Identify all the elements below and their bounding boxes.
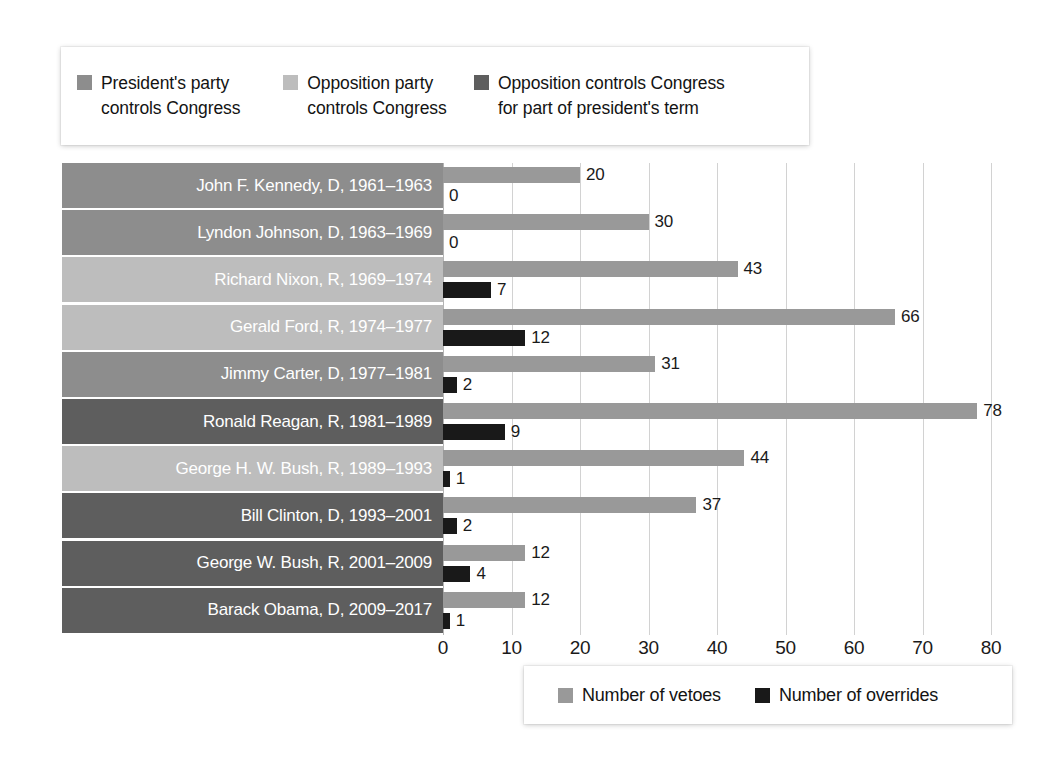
bars-layer: 2003004376612312789441372124121 bbox=[443, 163, 991, 635]
legend-item-presidents-party: President's party controls Congress bbox=[77, 71, 283, 121]
category-label: Richard Nixon, R, 1969–1974 bbox=[214, 270, 432, 290]
bar-override bbox=[443, 330, 525, 346]
control-of-congress-legend: President's party controls Congress Oppo… bbox=[61, 47, 809, 145]
x-tick-label-40: 40 bbox=[707, 637, 728, 659]
bar-value-override: 2 bbox=[463, 375, 472, 395]
bar-override bbox=[443, 613, 450, 629]
bar-value-veto: 43 bbox=[744, 259, 763, 279]
bar-veto bbox=[443, 450, 744, 466]
legend-label-line2: controls Congress bbox=[101, 98, 240, 118]
x-tick-label-20: 20 bbox=[570, 637, 591, 659]
bar-veto bbox=[443, 356, 655, 372]
bar-value-override: 0 bbox=[449, 186, 458, 206]
x-tick-label-60: 60 bbox=[844, 637, 865, 659]
category-label: Bill Clinton, D, 1993–2001 bbox=[241, 506, 432, 526]
bar-value-veto: 37 bbox=[702, 495, 721, 515]
x-axis: 01020304050607080 bbox=[443, 635, 991, 665]
category-band: Gerald Ford, R, 1974–1977 bbox=[62, 305, 443, 350]
bar-value-override: 12 bbox=[531, 328, 550, 348]
x-tick-label-80: 80 bbox=[981, 637, 1002, 659]
bar-veto bbox=[443, 167, 580, 183]
bar-override bbox=[443, 282, 491, 298]
category-band: Richard Nixon, R, 1969–1974 bbox=[62, 257, 443, 302]
x-tick-label-30: 30 bbox=[638, 637, 659, 659]
category-band: Lyndon Johnson, D, 1963–1969 bbox=[62, 210, 443, 255]
category-band: Ronald Reagan, R, 1981–1989 bbox=[62, 399, 443, 444]
bar-override bbox=[443, 424, 505, 440]
bar-veto bbox=[443, 545, 525, 561]
category-label: Ronald Reagan, R, 1981–1989 bbox=[203, 412, 432, 432]
legend-label-line1: Opposition party bbox=[307, 73, 433, 93]
legend-label-line2: for part of president's term bbox=[498, 98, 699, 118]
bar-value-override: 7 bbox=[497, 280, 506, 300]
legend-label-presidents-party: President's party controls Congress bbox=[101, 71, 240, 121]
bar-value-veto: 44 bbox=[750, 448, 769, 468]
bar-value-veto: 31 bbox=[661, 354, 680, 374]
legend-label-overrides: Number of overrides bbox=[779, 685, 938, 706]
bar-veto bbox=[443, 261, 738, 277]
bar-veto bbox=[443, 497, 696, 513]
bar-override bbox=[443, 471, 450, 487]
legend-swatch-presidents-party bbox=[77, 75, 92, 90]
x-tick-label-50: 50 bbox=[775, 637, 796, 659]
category-band: John F. Kennedy, D, 1961–1963 bbox=[62, 163, 443, 208]
category-label: Gerald Ford, R, 1974–1977 bbox=[230, 317, 432, 337]
legend-label-line1: President's party bbox=[101, 73, 229, 93]
bar-value-override: 1 bbox=[456, 469, 465, 489]
bar-value-override: 2 bbox=[463, 516, 472, 536]
series-legend: Number of vetoes Number of overrides bbox=[524, 666, 1012, 724]
bar-value-override: 9 bbox=[511, 422, 520, 442]
bar-value-override: 1 bbox=[456, 611, 465, 631]
bar-override bbox=[443, 518, 457, 534]
category-band: Jimmy Carter, D, 1977–1981 bbox=[62, 352, 443, 397]
category-band: Barack Obama, D, 2009–2017 bbox=[62, 588, 443, 633]
bar-value-override: 4 bbox=[476, 564, 485, 584]
legend-label-line2: controls Congress bbox=[307, 98, 446, 118]
legend-item-opposition-partial: Opposition controls Congress for part of… bbox=[474, 71, 795, 121]
bar-value-veto: 66 bbox=[901, 307, 920, 327]
legend-label-opposition-party: Opposition party controls Congress bbox=[307, 71, 446, 121]
bar-veto bbox=[443, 592, 525, 608]
category-band: Bill Clinton, D, 1993–2001 bbox=[62, 493, 443, 538]
legend-label-opposition-partial: Opposition controls Congress for part of… bbox=[498, 71, 725, 121]
bar-value-veto: 20 bbox=[586, 165, 605, 185]
bar-value-veto: 12 bbox=[531, 590, 550, 610]
bar-override bbox=[443, 377, 457, 393]
category-band: George H. W. Bush, R, 1989–1993 bbox=[62, 446, 443, 491]
category-label: Lyndon Johnson, D, 1963–1969 bbox=[197, 223, 432, 243]
legend-swatch-opposition-partial bbox=[474, 75, 489, 90]
bar-value-override: 0 bbox=[449, 233, 458, 253]
legend-swatch-vetoes bbox=[558, 688, 573, 703]
category-band: George W. Bush, R, 2001–2009 bbox=[62, 541, 443, 586]
x-tick-label-10: 10 bbox=[501, 637, 522, 659]
category-label-column: John F. Kennedy, D, 1961–1963Lyndon John… bbox=[62, 163, 443, 635]
category-label: Barack Obama, D, 2009–2017 bbox=[208, 600, 432, 620]
veto-override-bar-chart: President's party controls Congress Oppo… bbox=[0, 0, 1038, 769]
bar-override bbox=[443, 566, 470, 582]
category-label: George H. W. Bush, R, 1989–1993 bbox=[175, 459, 432, 479]
bar-value-veto: 30 bbox=[655, 212, 674, 232]
bar-veto bbox=[443, 403, 977, 419]
legend-item-opposition-party: Opposition party controls Congress bbox=[283, 71, 474, 121]
legend-swatch-overrides bbox=[755, 688, 770, 703]
bar-veto bbox=[443, 309, 895, 325]
category-label: Jimmy Carter, D, 1977–1981 bbox=[221, 364, 432, 384]
legend-item-vetoes: Number of vetoes bbox=[558, 685, 721, 706]
gridline-80 bbox=[991, 163, 992, 635]
bar-value-veto: 78 bbox=[983, 401, 1002, 421]
bar-veto bbox=[443, 214, 649, 230]
category-label: George W. Bush, R, 2001–2009 bbox=[197, 553, 432, 573]
legend-label-line1: Opposition controls Congress bbox=[498, 73, 725, 93]
x-tick-label-0: 0 bbox=[438, 637, 448, 659]
legend-swatch-opposition-party bbox=[283, 75, 298, 90]
x-tick-label-70: 70 bbox=[912, 637, 933, 659]
legend-label-vetoes: Number of vetoes bbox=[582, 685, 721, 706]
category-label: John F. Kennedy, D, 1961–1963 bbox=[196, 176, 432, 196]
plot-area: John F. Kennedy, D, 1961–1963Lyndon John… bbox=[62, 163, 991, 635]
bar-value-veto: 12 bbox=[531, 543, 550, 563]
legend-item-overrides: Number of overrides bbox=[755, 685, 938, 706]
